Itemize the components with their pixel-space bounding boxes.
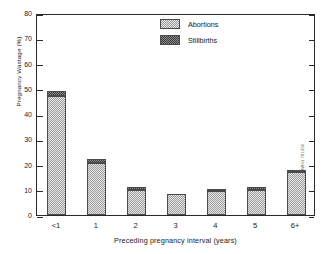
x-axis-tick-label: 6+ [275, 221, 315, 230]
y-axis-tick [37, 90, 43, 91]
chart-figure: 01020304050607080 Pregnancy Wastage (%) … [0, 0, 331, 254]
bar-segment-stillbirths [207, 189, 226, 192]
bar-segment-abortions [207, 191, 226, 215]
chart-legend: Abortions Stillbirths [160, 18, 278, 50]
bar-group [287, 170, 306, 215]
y-axis-tick-label: 0 [6, 212, 32, 219]
bar-group [167, 194, 186, 215]
bar-segment-stillbirths [87, 159, 106, 163]
y-axis-tick-right [309, 116, 314, 117]
y-axis-title: Pregnancy Wastage (%) [15, 2, 22, 142]
y-axis-tick-right [309, 15, 314, 16]
y-axis-tick [37, 217, 43, 218]
legend-item-stillbirths: Stillbirths [160, 34, 278, 47]
x-axis-title: Preceding pregnancy interval (years) [36, 236, 315, 245]
y-axis-tick [37, 40, 43, 41]
y-axis-tick [37, 191, 43, 192]
x-axis-tick-label: 2 [116, 221, 156, 230]
y-axis-tick [37, 116, 43, 117]
x-axis-tick-label: <1 [36, 221, 76, 230]
x-axis-tick-label: 1 [76, 221, 116, 230]
y-axis-tick-label: 20 [6, 162, 32, 169]
bar-segment-abortions [47, 96, 66, 215]
bar-group [47, 91, 66, 215]
bar-segment-abortions [167, 194, 186, 215]
y-axis-tick-right [309, 65, 314, 66]
y-axis-tick-right [309, 191, 314, 192]
y-axis-tick-right [309, 40, 314, 41]
x-axis-tick-label: 4 [195, 221, 235, 230]
bar-segment-abortions [287, 172, 306, 215]
bar-segment-stillbirths [127, 187, 146, 190]
y-axis-tick [37, 141, 43, 142]
legend-label-stillbirths: Stillbirths [188, 36, 217, 45]
y-axis-tick [37, 15, 43, 16]
y-axis-tick-right [309, 166, 314, 167]
x-axis-tick-label: 5 [235, 221, 275, 230]
bar-group [87, 159, 106, 215]
bar-segment-abortions [247, 190, 266, 215]
bar-segment-abortions [127, 190, 146, 215]
legend-swatch-abortions [160, 19, 180, 29]
legend-item-abortions: Abortions [160, 18, 278, 31]
y-axis-tick [37, 166, 43, 167]
legend-swatch-stillbirths [160, 35, 180, 45]
y-axis-tick-right [309, 217, 314, 218]
bar-segment-stillbirths [247, 187, 266, 190]
bar-segment-stillbirths [47, 91, 66, 96]
bar-group [207, 189, 226, 216]
bar-group [247, 187, 266, 215]
source-credit: WHO 781206 [300, 144, 305, 170]
x-axis-tick-label: 3 [156, 221, 196, 230]
y-axis-tick-label: 10 [6, 187, 32, 194]
y-axis-tick-right [309, 141, 314, 142]
bar-group [127, 187, 146, 215]
legend-label-abortions: Abortions [188, 20, 218, 29]
y-axis-tick-right [309, 90, 314, 91]
y-axis-tick [37, 65, 43, 66]
bar-segment-abortions [87, 163, 106, 215]
bar-segment-stillbirths [287, 170, 306, 172]
